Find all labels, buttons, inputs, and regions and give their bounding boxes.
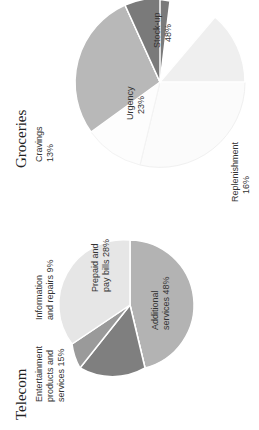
label-prepaid: Prepaid and pay bills 28% [90,239,111,292]
label-entertainment: Entertainment products and services 15% [34,343,66,402]
groceries-title: Groceries [13,110,29,168]
groceries-pie-chart: Groceries Cravings 13% Urgency [13,0,251,202]
telecom-pie [59,240,194,377]
label-cravings: Cravings 13% [34,124,55,162]
telecom-pie-chart: Telecom Entertainment products and servi… [13,239,194,420]
label-replenishment: Replenishment 16% [230,139,251,202]
chart-figure: Telecom Entertainment products and servi… [0,0,259,430]
label-information: Information and repairs 9% [34,259,55,320]
telecom-title: Telecom [13,368,29,420]
